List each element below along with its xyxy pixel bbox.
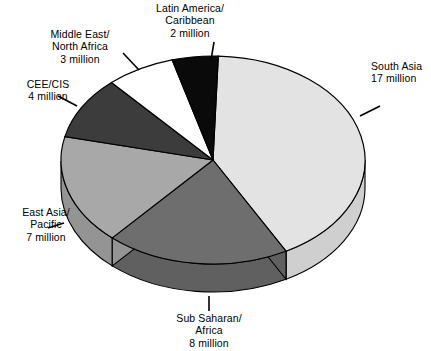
label-line: East Asia/ bbox=[0, 206, 92, 218]
slice-label-sub-saharan-africa: Sub Saharan/ Africa 8 million bbox=[150, 312, 268, 349]
pie-chart: Latin America/ Caribbean 2 million Middl… bbox=[0, 0, 431, 351]
label-value: 3 million bbox=[29, 53, 131, 65]
label-line: North Africa bbox=[29, 40, 131, 52]
leader-line-south-asia bbox=[360, 106, 380, 116]
label-value: 4 million bbox=[0, 90, 96, 102]
label-value: 8 million bbox=[150, 337, 268, 349]
label-line: Latin America/ bbox=[131, 2, 249, 14]
slice-label-latin-america: Latin America/ Caribbean 2 million bbox=[131, 2, 249, 39]
label-line: South Asia bbox=[371, 60, 431, 72]
slice-label-south-asia: South Asia 17 million bbox=[371, 60, 431, 85]
slice-label-middle-east-north-africa: Middle East/ North Africa 3 million bbox=[29, 28, 131, 65]
label-value: 7 million bbox=[0, 231, 92, 243]
slice-label-cee-cis: CEE/CIS 4 million bbox=[0, 78, 96, 103]
pie-slices bbox=[61, 56, 365, 264]
label-line: Pacific bbox=[0, 218, 92, 230]
label-line: Middle East/ bbox=[29, 28, 131, 40]
label-line: CEE/CIS bbox=[0, 78, 96, 90]
label-line: Caribbean bbox=[131, 14, 249, 26]
label-value: 2 million bbox=[131, 27, 249, 39]
label-line: Africa bbox=[150, 324, 268, 336]
label-value: 17 million bbox=[371, 72, 431, 84]
slice-label-east-asia-pacific: East Asia/ Pacific 7 million bbox=[0, 206, 92, 243]
label-line: Sub Saharan/ bbox=[150, 312, 268, 324]
